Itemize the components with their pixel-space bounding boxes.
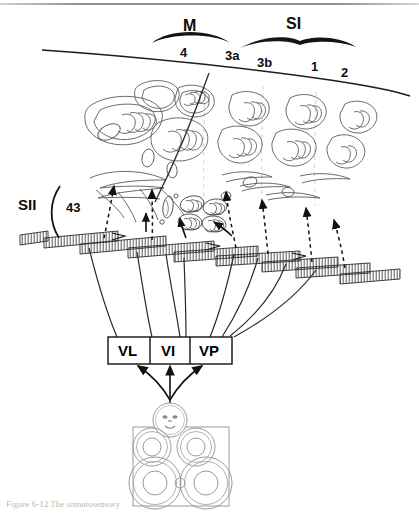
- figure-root: M SI SII 43 4 3a 3b 1 2 VL VI VP Figure …: [0, 0, 419, 513]
- label-area-3a: 3a: [225, 48, 239, 63]
- cortical-cells-somatosensory: [218, 92, 377, 202]
- brace-sii: [52, 186, 60, 238]
- central-oval-cluster: [160, 194, 228, 234]
- label-nucleus-vp: VP: [199, 342, 219, 359]
- label-nucleus-vl: VL: [118, 342, 137, 359]
- label-secondary-somatosensory: SII: [18, 196, 36, 213]
- label-motor-cortex: M: [183, 17, 196, 35]
- label-nucleus-vi: VI: [161, 342, 175, 359]
- label-area-2: 2: [341, 65, 348, 80]
- label-area-1: 1: [311, 59, 318, 74]
- diagram-canvas: [0, 0, 419, 513]
- brace-si: [240, 37, 356, 48]
- column-boundaries: [204, 86, 316, 206]
- figure-caption: Figure 6-12 The somatosensory: [6, 499, 120, 509]
- ascending-thalamic-arrows: [138, 366, 202, 400]
- label-area-43: 43: [66, 200, 80, 215]
- label-area-4: 4: [180, 45, 187, 60]
- body-representation-diagram: [129, 403, 232, 509]
- label-primary-somatosensory: SI: [286, 15, 301, 33]
- label-area-3b: 3b: [257, 55, 272, 70]
- face-circle: [153, 403, 187, 437]
- cortical-cells-motor: [85, 81, 215, 222]
